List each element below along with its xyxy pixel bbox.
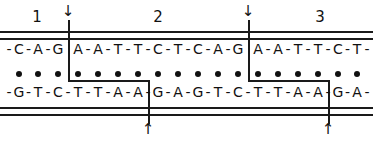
top-strand-base: A xyxy=(73,41,83,57)
base-pair-dot xyxy=(255,71,261,77)
top-strand-base: T xyxy=(294,41,303,57)
bottom-strand-dash: - xyxy=(145,84,150,100)
base-pair-dot xyxy=(295,71,301,77)
top-strand-dash: - xyxy=(225,41,230,57)
bottom-strand-dash: - xyxy=(345,84,350,100)
top-strand-dash: - xyxy=(125,41,130,57)
bottom-strand-dash: - xyxy=(265,84,270,100)
top-strand-dash: - xyxy=(165,41,170,57)
top-strand-base: G xyxy=(233,41,244,57)
dna-restriction-diagram: 1 2 3 ↓ ↓ ↑ ↑ -C-A-GA-A-T-T-C-T-C-A-GA-A… xyxy=(0,0,373,144)
top-strand-dash: - xyxy=(6,41,11,57)
top-strand-base: A xyxy=(93,41,103,57)
cut-bracket-2 xyxy=(248,80,329,82)
base-pair-dot xyxy=(354,71,360,77)
bottom-strand-base: A xyxy=(293,84,303,100)
base-pair-dot xyxy=(315,71,321,77)
base-pair-dot xyxy=(195,71,201,77)
top-strand-dash: - xyxy=(345,41,350,57)
bottom-strand-dash: - xyxy=(65,84,70,100)
top-strand-dash: - xyxy=(265,41,270,57)
base-pair-dot xyxy=(75,71,81,77)
bottom-strand-base: A xyxy=(113,84,123,100)
bottom-strand-dash: - xyxy=(26,84,31,100)
bottom-strand-base: A xyxy=(352,84,362,100)
bottom-strand-dash: - xyxy=(205,84,210,100)
top-strand-dash: - xyxy=(26,41,31,57)
bottom-strand-dash: - xyxy=(125,84,130,100)
base-pair-dot xyxy=(115,71,121,77)
top-strand-base: A xyxy=(273,41,283,57)
top-strand-base: C xyxy=(193,41,203,57)
base-pair-dot xyxy=(155,71,161,77)
bottom-strand-dash: - xyxy=(85,84,90,100)
top-strand-base: G xyxy=(53,41,64,57)
top-strand-dash: - xyxy=(145,41,150,57)
bottom-strand-backbone-line-1 xyxy=(0,107,373,109)
top-strand-dash: - xyxy=(285,41,290,57)
bottom-strand-dash: - xyxy=(364,84,369,100)
base-pair-dot xyxy=(135,71,141,77)
base-pair-dot xyxy=(335,71,341,77)
top-strand-backbone-line-1 xyxy=(0,31,373,33)
bottom-strand-base: A xyxy=(133,84,143,100)
bottom-strand-dash: - xyxy=(105,84,110,100)
top-strand-dash: - xyxy=(105,41,110,57)
top-strand-base: T xyxy=(134,41,143,57)
bottom-strand-base: T xyxy=(94,84,103,100)
bottom-strand-dash: - xyxy=(6,84,11,100)
bottom-strand-base: G xyxy=(193,84,204,100)
bottom-strand-dash: - xyxy=(225,84,230,100)
bottom-strand-dash: - xyxy=(165,84,170,100)
top-strand-dash: - xyxy=(325,41,330,57)
bottom-strand-dash: - xyxy=(185,84,190,100)
bottom-strand-dash: - xyxy=(325,84,330,100)
bottom-strand-base: A xyxy=(313,84,323,100)
bottom-strand-base: A xyxy=(173,84,183,100)
top-strand-base: C xyxy=(333,41,343,57)
top-strand-dash: - xyxy=(45,41,50,57)
top-strand-dash: - xyxy=(185,41,190,57)
base-pair-dot xyxy=(175,71,181,77)
bottom-strand-base: G xyxy=(333,84,344,100)
top-strand-base: A xyxy=(33,41,43,57)
top-strand-dash: - xyxy=(205,41,210,57)
top-strand-dash: - xyxy=(305,41,310,57)
segment-label-3: 3 xyxy=(315,8,325,26)
segment-label-2: 2 xyxy=(153,8,163,26)
bottom-strand-base: T xyxy=(34,84,43,100)
top-strand-base: C xyxy=(153,41,163,57)
base-pair-dot xyxy=(215,71,221,77)
bottom-strand-base: T xyxy=(74,84,83,100)
cut-line-top-2 xyxy=(248,20,250,80)
up-arrow-icon: ↑ xyxy=(322,122,335,137)
base-pair-dot xyxy=(275,71,281,77)
bottom-strand-base: G xyxy=(14,84,25,100)
down-arrow-icon: ↓ xyxy=(242,4,255,19)
bottom-strand-base: T xyxy=(214,84,223,100)
bottom-strand-dash: - xyxy=(285,84,290,100)
top-strand-base: T xyxy=(174,41,183,57)
top-strand-base: T xyxy=(114,41,123,57)
base-pair-dot xyxy=(235,71,241,77)
segment-label-1: 1 xyxy=(32,8,42,26)
bottom-strand-base: T xyxy=(274,84,283,100)
up-arrow-icon: ↑ xyxy=(142,122,155,137)
top-strand-base: A xyxy=(213,41,223,57)
down-arrow-icon: ↓ xyxy=(62,4,75,19)
bottom-strand-base: C xyxy=(53,84,63,100)
top-strand-dash: - xyxy=(85,41,90,57)
top-strand-base: T xyxy=(314,41,323,57)
base-pair-dot xyxy=(55,71,61,77)
top-strand-dash: - xyxy=(364,41,369,57)
top-strand-base: A xyxy=(253,41,263,57)
bottom-strand-backbone-line-2 xyxy=(0,114,373,116)
base-pair-dot xyxy=(35,71,41,77)
cut-bracket-1 xyxy=(68,80,149,82)
bottom-strand-dash: - xyxy=(305,84,310,100)
base-pair-dot xyxy=(95,71,101,77)
bottom-strand-base: G xyxy=(153,84,164,100)
bottom-strand-base: T xyxy=(254,84,263,100)
bottom-strand-base: C xyxy=(233,84,243,100)
top-strand-base: C xyxy=(14,41,24,57)
